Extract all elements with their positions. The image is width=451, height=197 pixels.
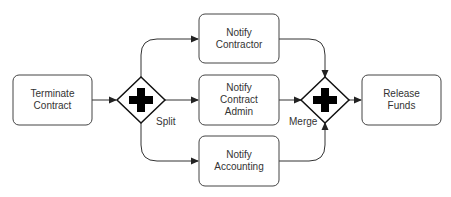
edge-split-accounting [141,123,198,161]
task-notify-accounting[interactable] [199,136,279,186]
edge-contractor-merge [279,39,325,77]
task-notify-contractor[interactable] [199,14,279,63]
label-split: Split [156,116,175,127]
task-terminate-contract[interactable] [13,75,92,125]
label-merge: Merge [289,116,317,127]
task-release-funds[interactable] [362,75,441,125]
edge-accounting-merge [279,123,325,161]
task-notify-contract-admin[interactable] [199,75,279,125]
edge-split-contractor [141,39,198,77]
process-diagram [0,0,451,197]
